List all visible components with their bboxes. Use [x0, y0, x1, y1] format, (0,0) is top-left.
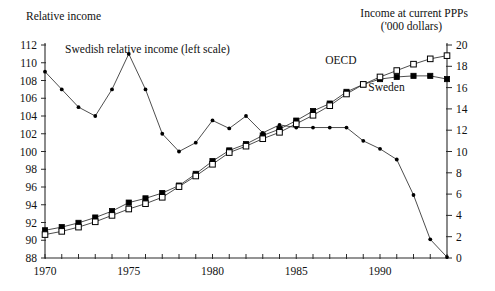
- x-tick-label: 1970: [34, 265, 57, 277]
- left-y-tick-label: 106: [20, 92, 38, 104]
- data-point-marker: [444, 53, 450, 59]
- left-y-tick-label: 96: [26, 181, 38, 193]
- right-y-tick-label: 16: [456, 82, 468, 94]
- data-point-marker: [360, 82, 366, 88]
- axes-layer: 8890929496981001021041061081101120246810…: [20, 39, 468, 277]
- right-axis-title-line1: Income at current PPPs: [360, 7, 468, 19]
- left-y-tick-label: 92: [26, 217, 38, 229]
- series-label-oecd: OECD: [325, 54, 356, 66]
- data-point-marker: [411, 61, 417, 67]
- data-point-marker: [43, 70, 47, 74]
- data-point-marker: [193, 173, 199, 179]
- data-point-marker: [126, 206, 132, 212]
- left-y-tick-label: 100: [20, 146, 38, 158]
- data-point-marker: [144, 87, 148, 91]
- data-point-marker: [428, 73, 433, 78]
- x-tick-label: 1990: [369, 265, 392, 277]
- data-point-marker: [177, 150, 181, 154]
- data-point-marker: [227, 127, 231, 131]
- data-point-marker: [311, 126, 315, 130]
- right-y-tick-label: 18: [456, 60, 468, 72]
- data-point-marker: [412, 193, 416, 197]
- data-point-marker: [310, 112, 316, 118]
- data-point-marker: [445, 255, 449, 259]
- data-point-marker: [109, 213, 115, 219]
- left-y-tick-label: 90: [26, 234, 38, 246]
- x-tick-label: 1975: [117, 265, 140, 277]
- left-y-tick-label: 98: [26, 163, 38, 175]
- data-point-marker: [110, 87, 114, 91]
- data-point-marker: [176, 184, 182, 190]
- left-y-tick-label: 102: [20, 128, 38, 140]
- data-point-marker: [159, 194, 165, 200]
- data-point-marker: [126, 200, 131, 205]
- data-point-marker: [143, 196, 148, 201]
- right-y-tick-label: 4: [456, 209, 462, 221]
- left-y-tick-label: 94: [26, 199, 38, 211]
- data-point-marker: [293, 121, 299, 127]
- data-point-marker: [328, 126, 332, 130]
- data-point-marker: [345, 126, 349, 130]
- data-point-marker: [327, 103, 333, 109]
- data-point-marker: [143, 201, 149, 207]
- right-y-tick-label: 6: [456, 188, 462, 200]
- annotation-swedish-relative-income: Swedish relative income (left scale): [65, 43, 230, 56]
- data-point-marker: [427, 56, 433, 62]
- data-point-marker: [260, 136, 266, 142]
- data-point-marker: [428, 237, 432, 241]
- labels-layer: Relative incomeIncome at current PPPs('0…: [26, 7, 469, 93]
- right-y-tick-label: 0: [456, 252, 462, 264]
- data-point-marker: [277, 130, 283, 136]
- data-point-marker: [60, 87, 64, 91]
- data-point-marker: [244, 114, 248, 118]
- data-point-marker: [243, 143, 249, 149]
- data-point-marker: [394, 68, 400, 74]
- data-point-marker: [59, 229, 65, 235]
- series-label-sweden: Sweden: [368, 81, 405, 93]
- left-y-tick-label: 108: [20, 75, 38, 87]
- right-y-tick-label: 12: [456, 124, 468, 136]
- data-point-marker: [226, 150, 232, 156]
- left-axis-title: Relative income: [26, 10, 101, 22]
- right-y-tick-label: 14: [456, 103, 468, 115]
- chart-container: 8890929496981001021041061081101120246810…: [0, 0, 495, 291]
- right-y-tick-label: 2: [456, 231, 462, 243]
- data-point-marker: [160, 132, 164, 136]
- data-point-marker: [210, 161, 216, 167]
- right-y-tick-label: 10: [456, 146, 468, 158]
- data-point-marker: [77, 105, 81, 109]
- data-point-marker: [211, 119, 215, 123]
- left-y-tick-label: 110: [20, 57, 37, 69]
- x-tick-label: 1980: [201, 265, 224, 277]
- right-axis-title-line2: ('000 dollars): [381, 20, 442, 33]
- data-point-marker: [394, 74, 399, 79]
- left-y-tick-label: 112: [20, 39, 37, 51]
- income-comparison-chart: 8890929496981001021041061081101120246810…: [0, 0, 495, 291]
- data-point-marker: [395, 158, 399, 162]
- data-point-marker: [76, 224, 82, 230]
- x-tick-label: 1985: [285, 265, 308, 277]
- series-sweden-ppp: [42, 73, 449, 233]
- left-y-tick-label: 104: [20, 110, 38, 122]
- data-point-marker: [92, 219, 98, 225]
- data-point-marker: [411, 73, 416, 78]
- data-point-marker: [361, 139, 365, 143]
- data-point-marker: [377, 74, 383, 80]
- data-point-marker: [42, 232, 48, 238]
- data-point-marker: [93, 114, 97, 118]
- right-y-tick-label: 20: [456, 39, 468, 51]
- right-y-tick-label: 8: [456, 167, 462, 179]
- left-y-tick-label: 88: [26, 252, 38, 264]
- data-point-marker: [344, 91, 350, 97]
- data-point-marker: [444, 76, 449, 81]
- data-point-marker: [378, 147, 382, 151]
- data-point-marker: [194, 141, 198, 145]
